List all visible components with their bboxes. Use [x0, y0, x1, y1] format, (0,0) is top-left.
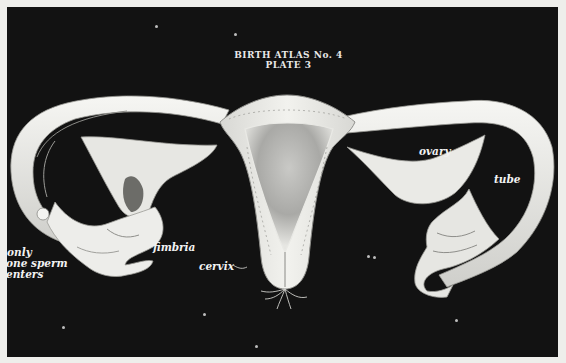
scanned-page: BIRTH ATLAS No. 4 PLATE 3 ovary tube fim… [0, 0, 566, 363]
plate-title: BIRTH ATLAS No. 4 [7, 50, 558, 60]
label-ovary: ovary [419, 146, 451, 157]
left-ovary [81, 137, 217, 219]
scan-speck [203, 313, 206, 316]
scan-speck [455, 319, 458, 322]
scan-speck [373, 256, 376, 259]
plate-subtitle: PLATE 3 [7, 60, 558, 70]
scan-speck [155, 25, 158, 28]
label-fimbria: fimbria [153, 242, 195, 253]
label-tube: tube [494, 174, 521, 185]
right-ovary [347, 135, 485, 204]
scan-speck [367, 255, 370, 258]
scan-speck [234, 33, 237, 36]
label-cervix: cervix [199, 261, 234, 272]
uterus [220, 95, 355, 289]
scan-speck [62, 326, 65, 329]
cervix-roots [261, 289, 307, 309]
scan-speck [255, 345, 258, 348]
cervix-pointer [233, 265, 247, 268]
label-note-line3: enters [7, 269, 43, 280]
anatomy-plate: BIRTH ATLAS No. 4 PLATE 3 ovary tube fim… [7, 7, 558, 357]
